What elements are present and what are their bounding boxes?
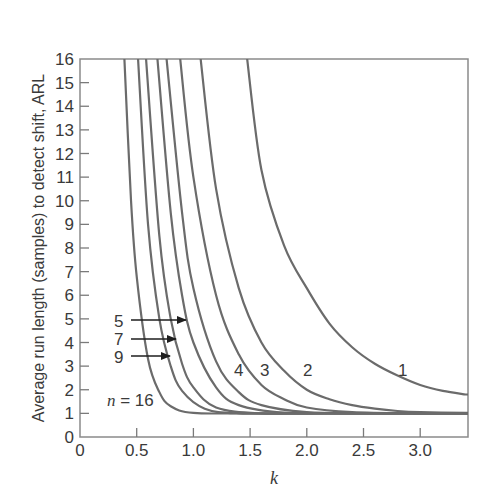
y-tick-label: 5 — [65, 310, 74, 329]
curve-n9 — [138, 55, 470, 414]
curve-label-2: 2 — [303, 361, 312, 380]
y-tick-label: 0 — [65, 428, 74, 447]
x-tick-label: 1.5 — [238, 441, 262, 460]
curve-label-7: 7 — [114, 330, 123, 349]
x-tick-label: 0 — [75, 441, 84, 460]
x-tick-label: 2.0 — [295, 441, 319, 460]
y-tick-label: 11 — [56, 168, 74, 187]
x-axis-ticks: 00.51.01.52.02.53.0 — [75, 428, 432, 460]
curve-label-1: 1 — [398, 361, 407, 380]
y-tick-label: 13 — [55, 121, 74, 140]
curve-label-16: n = 16 — [107, 391, 154, 410]
curve-label-4: 4 — [234, 361, 243, 380]
y-tick-label: 15 — [55, 74, 74, 93]
curve-n16 — [124, 55, 470, 414]
curve-label-5: 5 — [114, 312, 123, 331]
y-tick-label: 8 — [65, 239, 74, 258]
x-tick-label: 3.0 — [408, 441, 432, 460]
y-tick-label: 16 — [55, 50, 74, 69]
x-tick-label: 0.5 — [125, 441, 149, 460]
x-tick-label: 2.5 — [352, 441, 376, 460]
arl-curves — [124, 55, 470, 414]
y-tick-label: 7 — [65, 263, 74, 282]
curve-n1 — [247, 55, 470, 394]
y-tick-label: 10 — [55, 192, 74, 211]
x-axis-title: k — [270, 468, 279, 488]
curve-n3 — [180, 55, 470, 413]
y-axis-ticks: 012345678910111213141516 — [55, 50, 89, 447]
curve-n4 — [166, 55, 470, 413]
x-tick-label: 1.0 — [182, 441, 206, 460]
y-tick-label: 1 — [65, 404, 74, 423]
curve-label-3: 3 — [260, 361, 269, 380]
y-tick-label: 2 — [65, 381, 74, 400]
arl-chart: 012345678910111213141516 00.51.01.52.02.… — [0, 0, 486, 503]
curve-n5 — [157, 55, 470, 413]
y-tick-label: 4 — [65, 334, 74, 353]
y-tick-label: 6 — [65, 286, 74, 305]
y-tick-label: 3 — [65, 357, 74, 376]
y-tick-label: 14 — [55, 97, 74, 116]
y-tick-label: 12 — [55, 145, 74, 164]
curve-label-9: 9 — [114, 348, 123, 367]
y-axis-title: Average run length (samples) to detect s… — [30, 74, 47, 422]
curve-n7 — [146, 55, 470, 414]
y-tick-label: 9 — [65, 215, 74, 234]
